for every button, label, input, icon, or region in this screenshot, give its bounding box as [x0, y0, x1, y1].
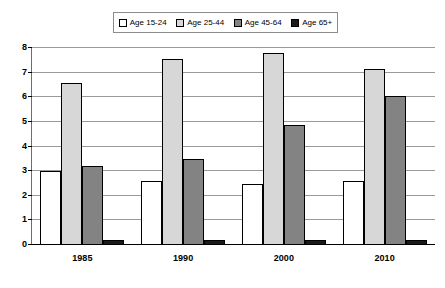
y-axis-tick-label: 0	[22, 240, 27, 249]
bar-1985-series-1	[40, 171, 61, 244]
legend-label-age-65-plus: Age 65+	[302, 19, 332, 27]
bar-2010-series-1	[343, 181, 364, 244]
x-axis-tick-label: 2010	[375, 253, 395, 263]
bar-1990-series-3	[183, 159, 204, 244]
bar-1990-series-4	[204, 240, 225, 244]
legend-swatch-icon-age-65-plus	[291, 19, 299, 27]
x-axis-tick-label: 1990	[173, 253, 193, 263]
bar-2010-series-3	[385, 96, 406, 244]
legend-item-age-25-44: Age 25-44	[176, 19, 224, 27]
legend-swatch-icon-age-25-44	[176, 19, 184, 27]
x-axis-tick-label: 1985	[72, 253, 92, 263]
y-axis-tick-label: 2	[22, 190, 27, 199]
x-axis-tick-label: 2000	[274, 253, 294, 263]
bar-2000-series-1	[242, 184, 263, 244]
y-axis-tick-label: 6	[22, 92, 27, 101]
legend-swatch-icon-age-45-64	[234, 19, 242, 27]
bar-2010-series-2	[364, 69, 385, 244]
bar-groups: 1985199020002010	[32, 47, 435, 244]
plot-area: 012345678 1985199020002010	[31, 47, 435, 245]
bar-chart: 012345678 1985199020002010	[0, 40, 445, 288]
bar-1985-series-3	[82, 166, 103, 244]
legend-item-age-65-plus: Age 65+	[291, 19, 332, 27]
y-axis-tick-label: 8	[22, 43, 27, 52]
chart-legend: Age 15-24 Age 25-44 Age 45-64 Age 65+	[113, 12, 338, 33]
bar-1985-series-2	[61, 83, 82, 244]
y-axis-tick-label: 5	[22, 116, 27, 125]
legend-label-age-45-64: Age 45-64	[245, 19, 282, 27]
bar-2000-series-4	[305, 240, 326, 244]
y-axis-tick-mark	[28, 244, 32, 245]
y-axis-tick-label: 3	[22, 166, 27, 175]
y-axis-tick-label: 4	[22, 141, 27, 150]
bar-group-1985: 1985	[40, 47, 124, 244]
bar-2010-series-4	[406, 240, 427, 244]
legend-label-age-15-24: Age 15-24	[130, 19, 167, 27]
bar-1990-series-2	[162, 59, 183, 244]
bar-group-2010: 2010	[343, 47, 427, 244]
y-axis-tick-label: 1	[22, 215, 27, 224]
bar-1985-series-4	[103, 240, 124, 244]
bar-group-2000: 2000	[242, 47, 326, 244]
bar-2000-series-3	[284, 125, 305, 244]
legend-label-age-25-44: Age 25-44	[187, 19, 224, 27]
legend-swatch-icon-age-15-24	[119, 19, 127, 27]
bar-1990-series-1	[141, 181, 162, 244]
legend-item-age-45-64: Age 45-64	[234, 19, 282, 27]
bar-group-1990: 1990	[141, 47, 225, 244]
bar-2000-series-2	[263, 53, 284, 244]
legend-item-age-15-24: Age 15-24	[119, 19, 167, 27]
y-axis-tick-label: 7	[22, 67, 27, 76]
